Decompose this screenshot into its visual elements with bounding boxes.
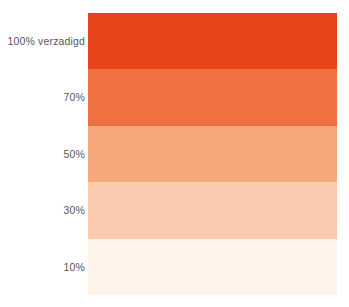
swatch-band-10 xyxy=(88,239,337,295)
axis-label-10: 10% xyxy=(64,262,85,273)
axis-label-70: 70% xyxy=(64,92,85,103)
axis-label-row: 50% xyxy=(0,126,85,182)
swatch-band-100 xyxy=(88,13,337,69)
axis-label-column: 100% verzadigd 70% 50% 30% 10% xyxy=(0,13,85,295)
saturation-scale-chart: 100% verzadigd 70% 50% 30% 10% xyxy=(0,0,349,307)
color-swatch-stack xyxy=(88,13,337,295)
axis-label-row: 70% xyxy=(0,69,85,125)
swatch-band-70 xyxy=(88,69,337,125)
axis-label-row: 30% xyxy=(0,182,85,238)
swatch-band-50 xyxy=(88,126,337,182)
axis-label-50: 50% xyxy=(64,149,85,160)
axis-label-30: 30% xyxy=(64,205,85,216)
axis-label-row: 10% xyxy=(0,239,85,295)
axis-label-100-verzadigd: 100% verzadigd xyxy=(8,36,85,47)
axis-label-row: 100% verzadigd xyxy=(0,13,85,69)
swatch-band-30 xyxy=(88,182,337,238)
